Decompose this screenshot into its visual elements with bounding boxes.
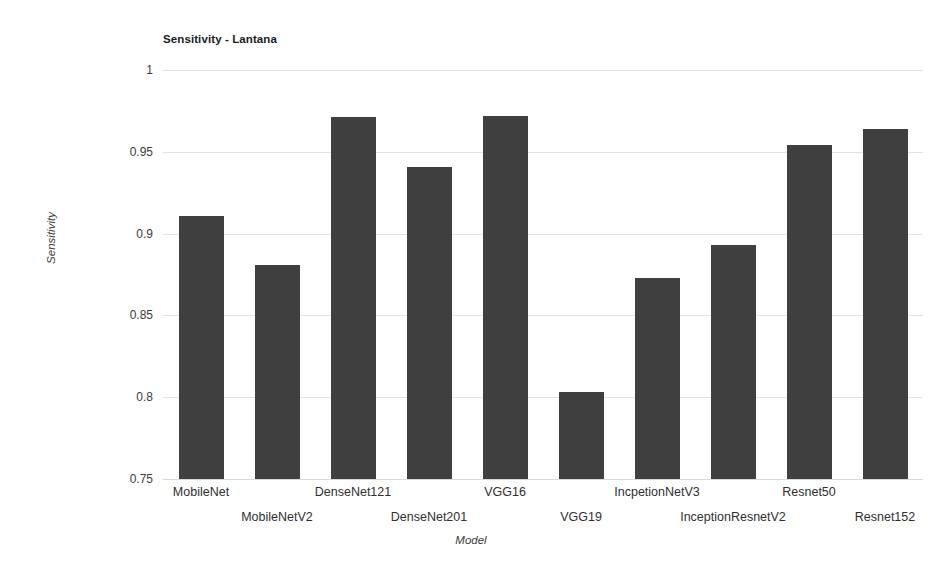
- bar: [407, 167, 452, 479]
- x-tick-label: InceptionResnetV2: [680, 510, 786, 524]
- y-tick-label: 0.95: [130, 145, 153, 159]
- bar: [787, 145, 832, 479]
- plot-area: [163, 70, 923, 479]
- chart-title: Sensitivity - Lantana: [163, 33, 277, 45]
- x-axis-tick-labels: MobileNetMobileNetV2DenseNet121DenseNet2…: [163, 479, 923, 539]
- x-tick-label: DenseNet121: [315, 485, 391, 499]
- x-tick-label: MobileNet: [173, 485, 229, 499]
- y-tick-label: 1: [146, 63, 153, 77]
- x-tick-label: Resnet152: [855, 510, 915, 524]
- bar: [559, 392, 604, 479]
- bar: [331, 117, 376, 479]
- x-tick-label: DenseNet201: [391, 510, 467, 524]
- x-tick-label: MobileNetV2: [241, 510, 313, 524]
- x-tick-label: VGG19: [560, 510, 602, 524]
- bar-chart: Sensitivity - Lantana Sensitivity 0.750.…: [0, 0, 942, 585]
- y-tick-label: 0.85: [130, 308, 153, 322]
- bar: [711, 245, 756, 479]
- x-axis-title: Model: [0, 534, 942, 546]
- y-axis-tick-labels: 0.750.80.850.90.951: [105, 70, 153, 479]
- bar: [483, 116, 528, 479]
- x-tick-label: IncpetionNetV3: [614, 485, 699, 499]
- y-axis-title: Sensitivity: [45, 183, 57, 293]
- y-tick-label: 0.75: [130, 472, 153, 486]
- x-tick-label: VGG16: [484, 485, 526, 499]
- bar: [255, 265, 300, 479]
- bar: [863, 129, 908, 479]
- bar: [635, 278, 680, 479]
- x-tick-label: Resnet50: [782, 485, 836, 499]
- y-tick-label: 0.9: [136, 227, 153, 241]
- bar: [179, 216, 224, 479]
- bars-layer: [163, 70, 923, 479]
- y-tick-label: 0.8: [136, 390, 153, 404]
